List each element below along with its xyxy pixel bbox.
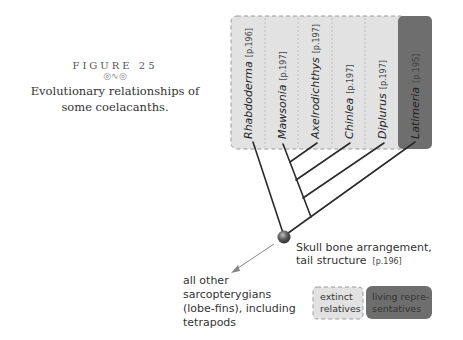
arrowhead-icon	[231, 265, 240, 273]
svg-text:relatives: relatives	[320, 303, 361, 314]
cladogram: Rhabdoderma[p.196] Mawsonia[p.197] Axelr…	[0, 0, 463, 340]
outgroup-label: all other sarcopterygians (lobe-fins), i…	[183, 274, 296, 329]
branches	[253, 142, 415, 236]
svg-text:extinct: extinct	[320, 291, 353, 302]
svg-text:sentatives: sentatives	[372, 303, 421, 314]
node-marker	[278, 231, 291, 244]
outgroup-arrow	[235, 244, 274, 270]
svg-text:tetrapods: tetrapods	[183, 316, 236, 329]
legend: extinct relatives living repre- sentativ…	[313, 286, 432, 319]
node-label-line1: Skull bone arrangement,	[296, 241, 432, 254]
svg-text:all other: all other	[183, 274, 229, 287]
svg-text:sarcopterygians: sarcopterygians	[183, 288, 271, 301]
node-label-line2: tail structure[p.196]	[296, 254, 402, 267]
svg-text:(lobe-fins), including: (lobe-fins), including	[183, 302, 296, 315]
svg-text:living repre-: living repre-	[372, 291, 429, 302]
